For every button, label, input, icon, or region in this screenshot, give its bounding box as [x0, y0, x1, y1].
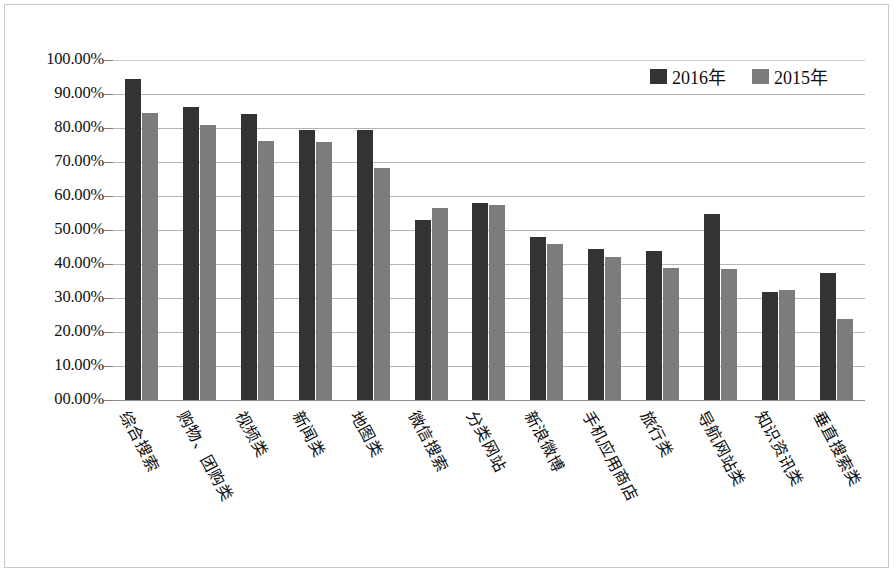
legend-label: 2016年 [672, 63, 726, 89]
bar-2015 [142, 113, 158, 400]
bar-group [113, 60, 171, 400]
y-axis-tick-label: 20.00% [4, 321, 104, 341]
bar-2016 [125, 79, 141, 400]
bar-group [518, 60, 576, 400]
x-axis-category-label: 旅行类 [635, 406, 679, 461]
legend-swatch-icon [752, 69, 769, 84]
bar-2015 [316, 142, 332, 400]
y-axis-tick-label: 40.00% [4, 253, 104, 273]
bar-2016 [588, 249, 604, 400]
legend-entry: 2016年 [650, 63, 726, 89]
bar-group [691, 60, 749, 400]
bar-group [229, 60, 287, 400]
x-axis-category-label: 综合搜索 [115, 406, 167, 476]
bar-2015 [258, 141, 274, 400]
bar-group [171, 60, 229, 400]
legend-swatch-icon [650, 69, 667, 84]
x-axis-category-label: 新闻类 [288, 406, 332, 461]
bar-2015 [721, 269, 737, 400]
bar-group [460, 60, 518, 400]
bar-group [344, 60, 402, 400]
y-axis-tick-mark [104, 366, 113, 367]
bar-2015 [374, 168, 390, 400]
bar-2015 [663, 268, 679, 400]
bar-group [634, 60, 692, 400]
y-axis-tick-mark [104, 94, 113, 95]
y-axis-tick-mark [104, 196, 113, 197]
y-axis-tick-label: 50.00% [4, 219, 104, 239]
bar-group [287, 60, 345, 400]
y-axis-tick-mark [104, 162, 113, 163]
bar-2015 [547, 244, 563, 400]
bar-group [576, 60, 634, 400]
x-axis-category-label: 地图类 [346, 406, 390, 461]
x-axis-category-label: 购物、团购类 [173, 406, 241, 505]
x-axis-category-label: 手机应用商店 [577, 406, 645, 505]
bar-chart: 100.00%90.00%80.00%70.00%60.00%50.00%40.… [0, 0, 895, 575]
bar-2016 [762, 292, 778, 400]
bar-2015 [837, 319, 853, 400]
x-axis-category-label: 微信搜索 [404, 406, 456, 476]
bar-2016 [704, 214, 720, 400]
bar-2016 [646, 251, 662, 400]
legend-label: 2015年 [774, 63, 828, 89]
y-axis-tick-label: 70.00% [4, 151, 104, 171]
y-axis-tick-mark [104, 128, 113, 129]
x-axis-category-label: 新浪微博 [520, 406, 572, 476]
bar-2016 [299, 130, 315, 400]
bar-2016 [183, 107, 199, 400]
bar-2015 [200, 125, 216, 400]
y-axis-tick-label: 30.00% [4, 287, 104, 307]
bar-2015 [432, 208, 448, 400]
x-axis-labels: 综合搜索购物、团购类视频类新闻类地图类微信搜索分类网站新浪微博手机应用商店旅行类… [0, 400, 895, 575]
x-axis-category-label: 导航网站类 [693, 406, 753, 490]
bar-2016 [241, 114, 257, 400]
x-axis-category-label: 分类网站 [462, 406, 514, 476]
y-axis-tick-mark [104, 60, 113, 61]
bar-2016 [820, 273, 836, 400]
y-axis-tick-mark [104, 332, 113, 333]
bar-2016 [472, 203, 488, 400]
y-axis-tick-label: 60.00% [4, 185, 104, 205]
y-axis-tick-mark [104, 298, 113, 299]
bar-2015 [779, 290, 795, 400]
y-axis-tick-label: 100.00% [4, 49, 104, 69]
y-axis-tick-mark [104, 230, 113, 231]
x-axis-category-label: 知识资讯类 [751, 406, 811, 490]
y-axis-tick-label: 90.00% [4, 83, 104, 103]
bar-2016 [530, 237, 546, 400]
plot-area [113, 60, 865, 400]
bar-group [807, 60, 865, 400]
bar-2016 [357, 130, 373, 400]
y-axis-tick-mark [104, 264, 113, 265]
bar-group [749, 60, 807, 400]
bar-2015 [605, 257, 621, 400]
y-axis-tick-label: 80.00% [4, 117, 104, 137]
x-axis-category-label: 视频类 [230, 406, 274, 461]
legend-entry: 2015年 [752, 63, 828, 89]
bar-2016 [415, 220, 431, 400]
chart-legend: 2016年2015年 [640, 62, 838, 90]
x-axis-category-label: 垂直搜索类 [809, 406, 869, 490]
y-axis-tick-label: 10.00% [4, 355, 104, 375]
bar-group [402, 60, 460, 400]
bar-2015 [489, 205, 505, 400]
